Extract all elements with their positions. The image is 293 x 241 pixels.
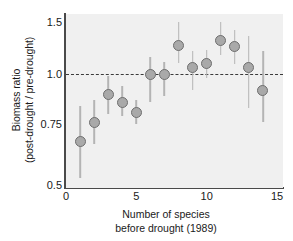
x-axis-title-line-2: before drought (1989) <box>46 222 286 236</box>
x-tick-label: 0 <box>51 191 81 202</box>
reference-line-at-one <box>66 74 283 75</box>
data-point-marker <box>173 40 184 51</box>
x-axis-title: Number of species before drought (1989) <box>46 208 286 235</box>
data-point-marker <box>257 85 268 96</box>
data-point-marker <box>229 41 240 52</box>
data-point-marker <box>89 117 100 128</box>
data-point-marker <box>159 69 170 80</box>
data-point-marker <box>75 136 86 147</box>
y-axis-tick-labels: 0.50.751.01.5 <box>36 0 62 241</box>
y-axis-title-line-1: Biomass ratio <box>10 37 23 163</box>
x-tick-label: 15 <box>262 191 292 202</box>
data-point-marker <box>187 62 198 73</box>
data-point-marker <box>145 69 156 80</box>
data-point-marker <box>215 35 226 46</box>
data-point-marker <box>131 107 142 118</box>
y-tick-label: 1.0 <box>36 69 62 80</box>
y-tick-label: 0.5 <box>36 180 62 191</box>
y-axis-title-line-2: (post-drought / pre-drought) <box>23 37 36 163</box>
y-tick-label: 0.75 <box>36 119 62 130</box>
data-point-marker <box>103 89 114 100</box>
data-point-marker <box>201 58 212 69</box>
data-point-marker <box>243 62 254 73</box>
plot-area <box>66 14 283 188</box>
x-tick-label: 10 <box>192 191 222 202</box>
x-axis-title-line-1: Number of species <box>46 208 286 222</box>
x-tick-label: 5 <box>121 191 151 202</box>
y-tick-label: 1.5 <box>36 17 62 28</box>
biomass-ratio-scatter-chart: Biomass ratio (post-drought / pre-drough… <box>0 0 293 241</box>
error-bar <box>150 57 152 102</box>
data-point-marker <box>117 97 128 108</box>
